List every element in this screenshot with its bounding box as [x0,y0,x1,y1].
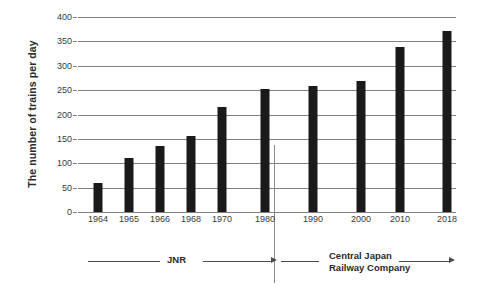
tick-mark [73,212,77,213]
bar-1966 [156,146,165,212]
arrow-right-icon [271,257,277,263]
arrow-right-icon [449,257,455,263]
y-tick-label: 200 [46,111,72,120]
annotation-cjrc-label-line1: Central Japan [329,250,392,261]
annotation-line-right [399,261,449,262]
annotation-central-japan-railway-era: Central JapanRailway Company [281,252,461,282]
x-tick-label-1965: 1965 [119,215,139,224]
y-tick-label: 50 [46,184,72,193]
tick-mark [73,139,77,140]
bar-chart: The number of trains per day 400 350 300… [0,0,486,288]
x-tick-label-2018: 2018 [437,215,457,224]
gridline-0 [78,212,456,213]
y-tick-label: 100 [46,159,72,168]
annotation-jnr-era: JNR [88,252,278,282]
x-tick-label-1970: 1970 [212,215,232,224]
bar-1990 [309,86,318,212]
tick-mark [73,41,77,42]
bar-2000 [357,81,366,212]
bar-1980 [261,89,270,212]
y-tick-label: 300 [46,62,72,71]
plot-area [78,17,456,212]
x-axis-tick-labels: 1964 1965 1966 1968 1970 1980 1990 2000 … [78,215,456,231]
tick-mark [73,66,77,67]
y-tick-label: 0 [46,208,72,217]
tick-mark [73,163,77,164]
x-tick-label-1980: 1980 [255,215,275,224]
gridline-350 [78,41,456,42]
y-axis-tick-labels: 400 350 300 250 200 150 100 50 0 [44,17,72,212]
y-axis-title: The number of trains per day [26,14,38,214]
tick-mark [73,17,77,18]
bar-1968 [187,136,196,212]
bar-1965 [125,158,134,212]
x-tick-label-1968: 1968 [181,215,201,224]
y-tick-label: 150 [46,135,72,144]
y-tick-label: 400 [46,13,72,22]
x-tick-label-1966: 1966 [150,215,170,224]
bar-1970 [218,107,227,212]
bar-2010 [396,47,405,212]
x-tick-label-1964: 1964 [88,215,108,224]
bar-1964 [94,183,103,212]
x-tick-label-1990: 1990 [303,215,323,224]
y-tick-label: 250 [46,86,72,95]
annotation-line-right [203,261,271,262]
annotation-cjrc-label-line2: Railway Company [329,262,410,273]
annotation-jnr-label: JNR [167,254,186,266]
tick-mark [73,90,77,91]
x-tick-label-2000: 2000 [351,215,371,224]
x-tick-label-2010: 2010 [390,215,410,224]
tick-mark [73,115,77,116]
annotation-line-left [281,261,319,262]
gridline-400 [78,17,456,18]
annotation-line-left [88,261,160,262]
tick-mark [73,188,77,189]
y-tick-label: 350 [46,37,72,46]
bar-2018 [443,31,452,212]
